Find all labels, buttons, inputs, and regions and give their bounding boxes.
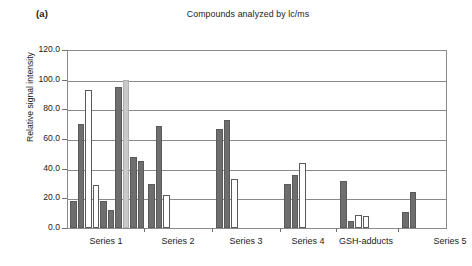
y-axis-tick-label: 120.0 [0,45,60,54]
y-axis-tick-label: 80.0 [0,104,60,113]
bar [216,129,223,228]
y-axis-tick-label: 60.0 [0,134,60,143]
bar [156,126,163,228]
bar [355,215,362,228]
chart-title: Compounds analyzed by lc/ms [0,9,472,19]
bar [100,201,107,228]
bar [292,175,299,228]
x-axis-category-label: Series 1 [66,236,146,246]
x-axis-group-separator [212,228,213,232]
x-axis-group-separator [144,228,145,232]
bar [70,201,77,228]
bar [284,184,291,229]
bar [340,181,347,228]
bar [299,163,306,228]
figure-panel: (a) Compounds analyzed by lc/ms Relative… [0,0,472,266]
bar [93,185,100,228]
bar [402,212,409,228]
bar [410,192,417,228]
y-axis-tick-label: 40.0 [0,164,60,173]
y-axis-title: Relative signal intensity [25,7,35,187]
y-axis-tick-label: 100.0 [0,75,60,84]
x-axis-category-label: GSH-adducts [326,236,406,246]
x-axis-group-separator [336,228,337,232]
bar [115,87,122,228]
x-axis-category-label: Series 5 [410,236,472,246]
x-axis-group-separator [398,228,399,232]
bar [148,184,155,229]
bars-layer [68,50,446,228]
bar [163,195,170,228]
bar [231,179,238,228]
bar [85,90,92,228]
bar [138,161,145,228]
y-axis-tick-label: 0.0 [0,223,60,232]
y-axis-tick-label: 20.0 [0,193,60,202]
bar [130,157,137,228]
bar [363,216,370,228]
bar [348,221,355,228]
bar [108,210,115,228]
bar [224,120,231,228]
bar [123,80,130,228]
x-axis-group-separator [280,228,281,232]
bar [78,124,85,228]
